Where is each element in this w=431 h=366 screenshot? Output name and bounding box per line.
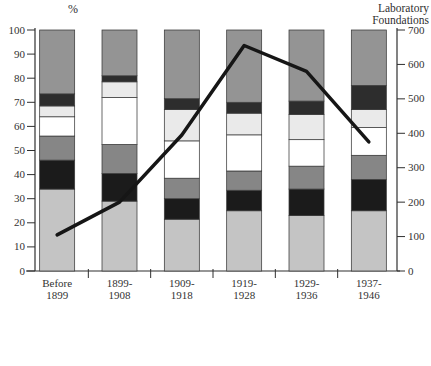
bar-segment-nonelectrical-machinery	[40, 106, 75, 117]
bar-segment-metals	[40, 117, 75, 136]
bar-segment-food-tobacco-beverages	[351, 155, 386, 179]
x-axis-label: 1908	[109, 289, 132, 301]
bar-segment-chemicals	[227, 211, 262, 271]
x-axis-label: 1936	[296, 289, 319, 301]
right-axis-tick-label: 0	[408, 265, 414, 277]
right-axis-tick-label: 400	[408, 127, 425, 139]
left-axis-tick-label: 70	[14, 96, 26, 108]
left-axis-tick-label: 100	[9, 24, 26, 36]
right-axis-tick-label: 300	[408, 161, 425, 173]
bar-segment-metals	[289, 140, 324, 167]
left-axis-tick-label: 50	[14, 144, 26, 156]
left-axis-tick-label: 10	[14, 240, 26, 252]
right-axis-tick-label: 100	[408, 230, 425, 242]
right-axis-tick-label: 500	[408, 92, 425, 104]
left-axis-tick-label: 90	[14, 48, 26, 60]
x-axis-label: 1929-	[294, 277, 320, 289]
bar-segment-instruments	[289, 101, 324, 114]
left-axis-tick-label: 60	[14, 120, 26, 132]
bar-segment-chemicals	[102, 201, 137, 271]
chart-legend: Chemicals Nonelectrical Machinery Electr…	[0, 310, 431, 366]
x-axis-label: 1937-	[356, 277, 382, 289]
bar-segment-electrical-machinery	[164, 199, 199, 219]
x-axis-label: 1946	[358, 289, 381, 301]
bar-segment-food-tobacco-beverages	[40, 136, 75, 160]
bar-segment-others	[227, 30, 262, 102]
x-axis-label: 1909-	[169, 277, 195, 289]
x-axis-label: 1919-	[231, 277, 257, 289]
bar-segment-others	[164, 30, 199, 99]
bar-segment-chemicals	[164, 219, 199, 271]
left-axis-tick-label: 0	[20, 265, 26, 277]
bar-segment-others	[102, 30, 137, 76]
bar-segment-others	[351, 30, 386, 85]
bar-segment-food-tobacco-beverages	[164, 178, 199, 198]
x-axis-label: 1899-	[107, 277, 133, 289]
bar-segment-nonelectrical-machinery	[289, 114, 324, 139]
bar-segment-electrical-machinery	[40, 160, 75, 189]
bar-segment-instruments	[227, 102, 262, 113]
bar-segment-food-tobacco-beverages	[289, 166, 324, 189]
left-axis-tick-label: 40	[14, 168, 26, 180]
x-axis-label: Before	[42, 277, 72, 289]
stacked-bar-line-chart-figure: % Laboratory Foundations 010203040506070…	[0, 0, 431, 366]
bar-segment-instruments	[40, 94, 75, 106]
bar-segment-food-tobacco-beverages	[102, 144, 137, 173]
bar-segment-instruments	[102, 76, 137, 82]
right-axis-tick-label: 600	[408, 58, 425, 70]
x-axis-label: 1928	[233, 289, 256, 301]
left-axis-tick-label: 20	[14, 216, 26, 228]
bar-segment-electrical-machinery	[289, 189, 324, 216]
right-axis-tick-label: 200	[408, 196, 425, 208]
bar-segment-electrical-machinery	[351, 179, 386, 210]
bar-segment-metals	[227, 135, 262, 171]
x-axis-label: 1899	[46, 289, 69, 301]
bar-segment-chemicals	[289, 216, 324, 271]
bar-segment-others	[40, 30, 75, 94]
right-axis-tick-label: 700	[408, 24, 425, 36]
bar-segment-nonelectrical-machinery	[102, 82, 137, 98]
bar-segment-instruments	[351, 85, 386, 109]
bar-segment-nonelectrical-machinery	[351, 110, 386, 128]
left-axis-tick-label: 80	[14, 72, 26, 84]
x-axis-label: 1918	[171, 289, 194, 301]
bar-segment-nonelectrical-machinery	[227, 113, 262, 135]
bar-segment-metals	[102, 97, 137, 144]
bar-segment-food-tobacco-beverages	[227, 171, 262, 190]
bar-segment-electrical-machinery	[227, 190, 262, 210]
left-axis-tick-label: 30	[14, 192, 26, 204]
bar-segment-instruments	[164, 99, 199, 110]
bar-segment-chemicals	[351, 211, 386, 271]
